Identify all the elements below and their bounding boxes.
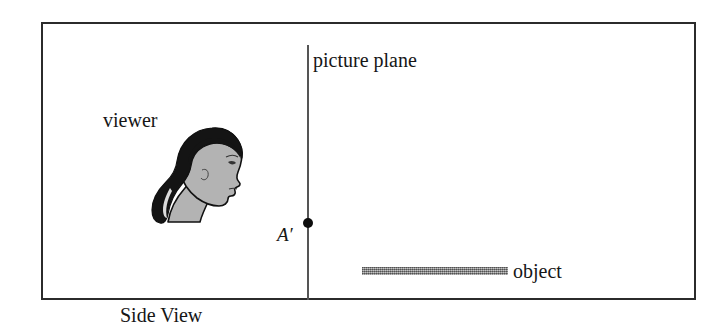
object-label: object — [513, 259, 562, 283]
point-a-prime-label: A′ — [277, 224, 293, 246]
figure-canvas: picture plane viewer A′ object Side V — [0, 0, 724, 330]
side-view-caption: Side View — [120, 303, 202, 327]
picture-plane-line — [307, 45, 309, 300]
picture-plane-label: picture plane — [313, 48, 417, 72]
viewer-head-illustration — [140, 118, 252, 228]
object-bar — [362, 267, 508, 275]
point-a-prime-dot — [303, 218, 313, 228]
